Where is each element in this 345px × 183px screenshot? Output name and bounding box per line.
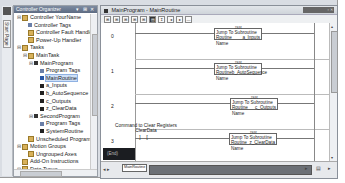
- expand-toggle-icon[interactable]: ⊟: [28, 113, 33, 121]
- editor-window-controls[interactable]: ▫ ✕: [303, 7, 334, 13]
- ladder-rung[interactable]: 0JSRJump To SubroutineRoutine Namea_Inpu…: [101, 25, 329, 60]
- expand-toggle-icon[interactable]: ⊟: [16, 44, 21, 52]
- tree-node[interactable]: Unscheduled Programs: [14, 136, 90, 144]
- toolbar-button[interactable]: —: [185, 16, 192, 23]
- xic-contact-icon[interactable]: ] [: [139, 134, 150, 140]
- scroll-thumb[interactable]: [20, 171, 62, 177]
- tree-node[interactable]: Program Tags: [14, 67, 90, 75]
- scroll-down-icon[interactable]: ▾: [331, 155, 333, 160]
- tree-node[interactable]: Ungrouped Axes: [14, 151, 90, 159]
- organizer-horizontal-scrollbar[interactable]: [14, 169, 97, 176]
- routine-name-label: Routine Name: [216, 70, 232, 81]
- folder-icon: [28, 53, 34, 59]
- toolbar-button[interactable]: ↧: [158, 16, 165, 23]
- ladder-rung[interactable]: 1JSRJump To SubroutineRoutine Nameb_Auto…: [101, 60, 329, 95]
- toolbar-button[interactable]: ⊞: [113, 16, 120, 23]
- expand-toggle-icon[interactable]: ⊟: [16, 143, 21, 151]
- tree-node[interactable]: ⊟MainTask: [14, 52, 90, 60]
- start-page-tab[interactable]: Start Page: [3, 20, 11, 48]
- tree-node[interactable]: SystemRoutine: [14, 128, 90, 136]
- tree-node-label: z_ClearData: [46, 105, 77, 111]
- contact-comment: Command to Clear RegistersClearData: [111, 123, 181, 133]
- folder-icon: [28, 136, 34, 142]
- tree-node-label: Controller YourName: [30, 14, 81, 20]
- organizer-title-bar: Controller Organizer ▾ ⊞ ✕: [14, 6, 97, 13]
- jsr-instruction[interactable]: JSRJump To SubroutineRoutine Namea_Input…: [214, 28, 262, 40]
- tree-node-label: SecondProgram: [40, 113, 80, 119]
- tree-node[interactable]: ⊟Controller YourName: [14, 14, 90, 22]
- organizer-tree: ⊟Controller YourNameController TagsContr…: [14, 14, 90, 169]
- tree-node[interactable]: Add-On Instructions: [14, 158, 90, 166]
- tree-node[interactable]: ⊟Tasks: [14, 44, 90, 52]
- routine-name-value[interactable]: c_Outputs: [255, 105, 276, 116]
- tree-node[interactable]: Power-Up Handler: [14, 37, 90, 45]
- organizer-vertical-scrollbar[interactable]: [90, 14, 97, 169]
- tree-node[interactable]: c_Outputs: [14, 98, 90, 106]
- folder-icon: [28, 30, 34, 36]
- toolbar-button[interactable]: ▸: [176, 16, 183, 23]
- routine-icon: [40, 129, 44, 133]
- routine-name-value[interactable]: z_ClearData: [249, 140, 275, 151]
- tree-node[interactable]: ⊟MainProgram: [14, 60, 90, 68]
- application-frame: Start Page Controller Organizer ▾ ⊞ ✕ ⊟C…: [0, 0, 338, 178]
- editor-title-bar: MainProgram - MainRoutine ▫ ✕: [101, 6, 337, 15]
- tree-node-label: Program Tags: [46, 120, 80, 126]
- tab-nav-arrows[interactable]: ◂ ▸: [103, 166, 110, 172]
- instruction-mnemonic: JSR: [215, 60, 261, 66]
- editor-bottom-bar: ◂ ▸ MainRoutine ▸ ▤ ▸: [101, 161, 337, 178]
- folder-icon: [22, 159, 28, 165]
- jsr-instruction[interactable]: JSRJump To SubroutineRoutine Namec_Outpu…: [230, 98, 278, 110]
- ladder-rung[interactable]: 3JSRJump To SubroutineRoutine Namez_Clea…: [101, 130, 329, 161]
- tree-node[interactable]: ⊟SecondProgram: [14, 113, 90, 121]
- toolbar-button[interactable]: ⊞: [122, 16, 129, 23]
- expand-toggle-icon[interactable]: ⊟: [16, 14, 21, 22]
- toolbar-button[interactable]: ⊞: [140, 16, 147, 23]
- scroll-right-controls[interactable]: ▸ ▤ ▸: [305, 166, 334, 171]
- tree-node[interactable]: Controller Tags: [14, 22, 90, 30]
- tree-node[interactable]: Program Tags: [14, 120, 90, 128]
- tree-node[interactable]: Controller Fault Handler: [14, 29, 90, 37]
- tags-icon: [40, 69, 44, 73]
- jsr-instruction[interactable]: JSRJump To SubroutineRoutine Nameb_AutoS…: [214, 63, 262, 75]
- expand-toggle-icon[interactable]: ⊟: [28, 60, 33, 68]
- jsr-instruction[interactable]: JSRJump To SubroutineRoutine Namez_Clear…: [229, 133, 277, 145]
- pin-icon[interactable]: [3, 7, 11, 15]
- organizer-window-controls[interactable]: ▾ ⊞ ✕: [76, 6, 95, 13]
- folder-icon: [28, 151, 34, 157]
- tree-node-label: Controller Tags: [34, 22, 71, 28]
- toolbar-button[interactable]: ⊞: [131, 16, 138, 23]
- tree-node-label: Power-Up Handler: [36, 37, 81, 43]
- routine-name-label: Routine Name: [231, 140, 249, 151]
- rung-wire: [135, 138, 315, 139]
- routine-tab-mainroutine[interactable]: MainRoutine: [122, 164, 147, 172]
- routine-name-value[interactable]: a_Inputs: [242, 35, 260, 46]
- routine-icon: [40, 99, 44, 103]
- scroll-thumb[interactable]: [92, 34, 98, 116]
- tree-node-label: Tasks: [30, 44, 44, 50]
- expand-toggle-icon[interactable]: ⊟: [22, 52, 27, 60]
- tree-node[interactable]: b_AutoSequence: [14, 90, 90, 98]
- contact-tag[interactable]: ClearData: [111, 128, 181, 133]
- routine-name-value[interactable]: b_AutoSequence: [232, 70, 267, 81]
- routine-icon: [40, 107, 44, 111]
- tree-node[interactable]: a_Inputs: [14, 82, 90, 90]
- tree-node-label: MainTask: [36, 52, 59, 58]
- editor-horizontal-scrollbar[interactable]: [149, 165, 312, 175]
- organizer-title: Controller Organizer: [16, 6, 61, 12]
- tree-node-label: Ungrouped Axes: [36, 151, 77, 157]
- scroll-thumb[interactable]: [331, 31, 338, 93]
- scroll-up-icon[interactable]: ▴: [331, 24, 333, 29]
- toolbar-button[interactable]: ▤: [149, 16, 156, 23]
- toolbar-button[interactable]: ⊞: [104, 16, 111, 23]
- editor-title: MainProgram - MainRoutine: [112, 7, 181, 13]
- editor-vertical-scrollbar[interactable]: ▴ ▾: [329, 23, 337, 161]
- start-page-tab-strip: Start Page: [2, 6, 13, 176]
- folder-icon: [22, 144, 28, 150]
- instruction-mnemonic: JSR: [231, 95, 277, 101]
- toolbar-button[interactable]: ◂: [167, 16, 174, 23]
- ladder-diagram[interactable]: 0JSRJump To SubroutineRoutine Namea_Inpu…: [101, 23, 329, 161]
- tree-node[interactable]: MainRoutine: [14, 75, 90, 83]
- routine-icon: [40, 91, 44, 95]
- tree-node[interactable]: z_ClearData: [14, 105, 90, 113]
- tree-node[interactable]: ⊟Motion Groups: [14, 143, 90, 151]
